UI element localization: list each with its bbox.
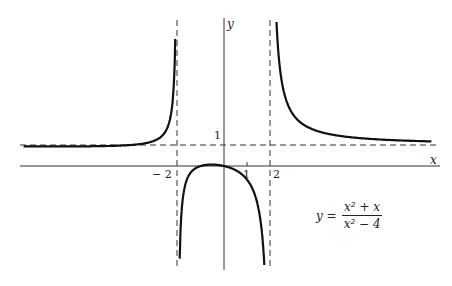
tick-label-y1: 1 <box>214 129 221 142</box>
formula-numerator: x² + x <box>342 200 382 216</box>
formula-denominator: x² − 4 <box>342 216 383 231</box>
curve-middle-branch <box>180 165 265 265</box>
curve-left-branch <box>24 39 176 146</box>
formula-lhs: y = <box>316 209 337 223</box>
plot-area <box>0 0 452 286</box>
chart: y x − 2 1 2 1 y = x² + x x² − 4 <box>0 0 452 286</box>
tick-label-minus2: − 2 <box>152 168 172 181</box>
curve-right-branch <box>277 22 432 141</box>
tick-label-2: 2 <box>273 168 280 181</box>
tick-label-1: 1 <box>243 168 250 181</box>
function-formula: y = x² + x x² − 4 <box>316 200 383 231</box>
formula-fraction: x² + x x² − 4 <box>342 200 383 231</box>
x-axis-label: x <box>430 153 437 167</box>
y-axis-label: y <box>227 17 234 31</box>
